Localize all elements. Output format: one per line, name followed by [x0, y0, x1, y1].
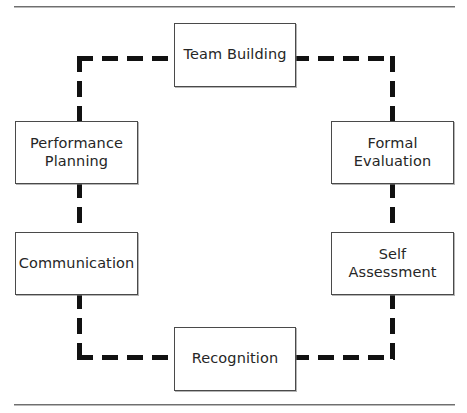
- connector-right-middle: [390, 182, 395, 235]
- connector-left-middle: [77, 182, 82, 235]
- connector-right-upper: [390, 56, 395, 124]
- node-recognition[interactable]: Recognition: [174, 327, 296, 391]
- node-team-building[interactable]: Team Building: [174, 23, 296, 87]
- node-recognition-label: Recognition: [188, 350, 283, 368]
- top-divider-rule: [14, 6, 455, 8]
- node-communication[interactable]: Communication: [15, 232, 138, 295]
- connector-top-right: [293, 56, 395, 61]
- connector-left-upper: [77, 56, 82, 124]
- node-formal-evaluation-label: Formal Evaluation: [350, 135, 436, 170]
- performance-cycle-figure: Team Building Formal Evaluation Self Ass…: [0, 0, 467, 413]
- connector-left-lower: [77, 293, 82, 360]
- connector-bottom-right: [293, 355, 395, 360]
- connector-right-lower: [390, 293, 395, 360]
- connector-bottom-left: [77, 355, 177, 360]
- node-communication-label: Communication: [15, 255, 139, 273]
- connector-top-left: [77, 56, 177, 61]
- bottom-divider-rule: [14, 404, 455, 406]
- node-formal-evaluation[interactable]: Formal Evaluation: [331, 121, 454, 184]
- node-performance-planning-label: Performance Planning: [26, 135, 127, 170]
- node-self-assessment[interactable]: Self Assessment: [331, 232, 454, 295]
- node-self-assessment-label: Self Assessment: [345, 246, 441, 281]
- node-performance-planning[interactable]: Performance Planning: [15, 121, 138, 184]
- node-team-building-label: Team Building: [179, 46, 290, 64]
